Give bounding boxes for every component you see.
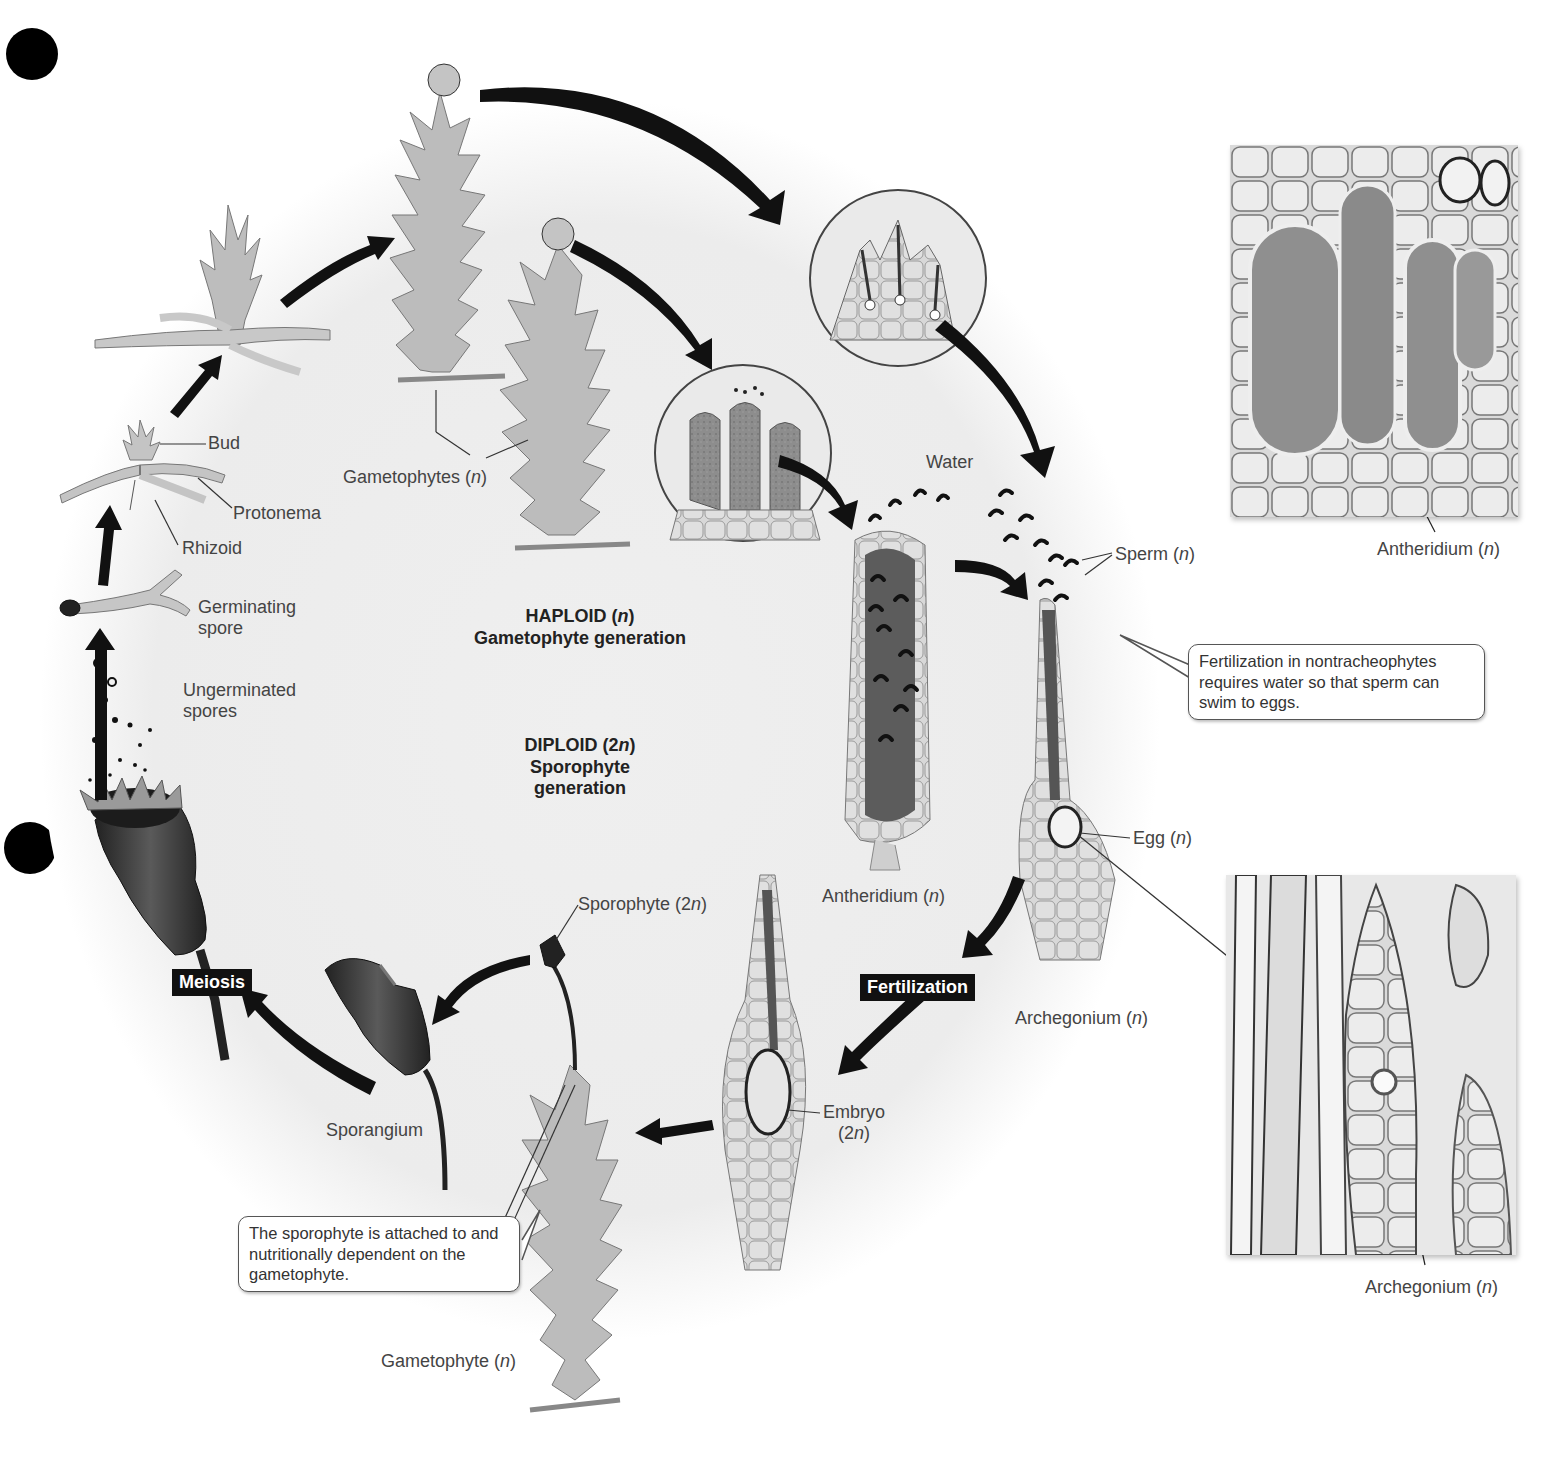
label-egg: Egg (n): [1133, 828, 1192, 849]
label-embryo-line2: (2n): [823, 1123, 885, 1144]
fertilization-tag: Fertilization: [860, 974, 975, 1001]
haploid-subheading: Gametophyte generation: [445, 628, 715, 650]
haploid-heading: HAPLOID (n): [445, 606, 715, 628]
label-water: Water: [926, 452, 973, 473]
label-embryo: Embryo (2n): [823, 1102, 885, 1143]
callout-sporophyte-dependence: The sporophyte is attached to and nutrit…: [238, 1216, 520, 1292]
label-ungerminated-spores: Ungerminated spores: [183, 680, 296, 721]
moss-life-cycle-figure: HAPLOID (n) Gametophyte generation DIPLO…: [0, 0, 1554, 1463]
label-sporangium: Sporangium: [326, 1120, 423, 1141]
label-antheridium: Antheridium (n): [822, 886, 945, 907]
diploid-generation-title: DIPLOID (2n) Sporophyte generation: [480, 735, 680, 800]
diploid-subheading-1: Sporophyte: [480, 757, 680, 779]
diploid-heading: DIPLOID (2n): [480, 735, 680, 757]
label-protonema: Protonema: [233, 503, 321, 524]
antheridia-inset: [655, 365, 831, 541]
label-bud: Bud: [208, 433, 240, 454]
label-ungerminated-line1: Ungerminated: [183, 680, 296, 701]
label-rhizoid: Rhizoid: [182, 538, 242, 559]
label-gametophytes: Gametophytes (n): [343, 467, 487, 488]
label-sperm: Sperm (n): [1115, 544, 1195, 565]
haploid-generation-title: HAPLOID (n) Gametophyte generation: [445, 606, 715, 649]
archegonium-micrograph: [1226, 875, 1516, 1255]
label-archegonium: Archegonium (n): [1015, 1008, 1148, 1029]
label-micrograph-archegonium: Archegonium (n): [1365, 1277, 1498, 1298]
meiosis-tag: Meiosis: [172, 969, 252, 996]
callout-fertilization-water: Fertilization in nontracheophytes requir…: [1188, 644, 1485, 720]
label-germinating-spore: Germinating spore: [198, 597, 296, 638]
antheridium-micrograph: [1230, 145, 1518, 517]
label-sporophyte: Sporophyte (2n): [578, 894, 707, 915]
label-embryo-line1: Embryo: [823, 1102, 885, 1123]
label-germinating-spore-line2: spore: [198, 618, 296, 639]
label-germinating-spore-line1: Germinating: [198, 597, 296, 618]
label-gametophyte: Gametophyte (n): [381, 1351, 516, 1372]
label-micrograph-antheridium: Antheridium (n): [1377, 539, 1500, 560]
label-ungerminated-line2: spores: [183, 701, 296, 722]
diploid-subheading-2: generation: [480, 778, 680, 800]
